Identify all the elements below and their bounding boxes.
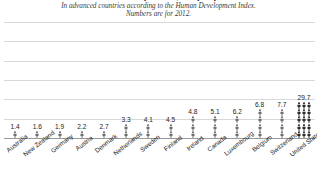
bar-sweden[interactable]: 4.1 xyxy=(137,22,159,138)
bar-value-label: 1.4 xyxy=(11,123,20,130)
bar-belgium[interactable]: 6.8 xyxy=(248,22,270,138)
chart-subtitle-line-1: In advanced countries according to the H… xyxy=(0,2,317,10)
person-icon xyxy=(302,102,306,109)
x-label-slot: Netherlands xyxy=(115,138,137,180)
bar-value-label: 5.1 xyxy=(210,108,219,115)
x-label-slot: Finland xyxy=(160,138,182,180)
icon-column xyxy=(58,131,62,138)
x-label-slot: Denmark xyxy=(93,138,115,180)
icon-column xyxy=(80,131,84,138)
person-icon xyxy=(80,131,84,138)
x-label-slot: Austria xyxy=(71,138,93,180)
icon-column xyxy=(302,102,306,138)
bar-value-label: 4.8 xyxy=(188,108,197,115)
icon-column xyxy=(102,131,106,138)
person-icon xyxy=(191,131,195,138)
person-icon xyxy=(302,109,306,116)
chart-header: Gun deaths per 100,000 people In advance… xyxy=(0,0,317,19)
person-icon xyxy=(258,131,262,138)
x-label-slot: Luxembourg xyxy=(226,138,248,180)
bar-netherlands[interactable]: 3.3 xyxy=(115,22,137,138)
person-icon xyxy=(235,124,239,131)
bar-canada[interactable]: 5.1 xyxy=(204,22,226,138)
bar-luxembourg[interactable]: 6.2 xyxy=(226,22,248,138)
icon-stack xyxy=(146,124,150,138)
bar-value-label: 1.6 xyxy=(33,123,42,130)
person-icon xyxy=(191,116,195,123)
person-icon xyxy=(280,116,284,123)
person-icon xyxy=(235,116,239,123)
bar-series: 1.41.61.92.22.73.34.14.54.85.16.26.87.72… xyxy=(4,22,315,138)
x-label-slot: Germany xyxy=(48,138,70,180)
person-icon xyxy=(124,131,128,138)
person-icon xyxy=(102,131,106,138)
person-icon xyxy=(297,102,301,109)
icon-stack xyxy=(258,109,262,138)
x-label-slot: Sweden xyxy=(137,138,159,180)
person-icon xyxy=(169,124,173,131)
person-icon xyxy=(297,109,301,116)
bar-value-label: 4.1 xyxy=(144,116,153,123)
bar-value-label: 2.7 xyxy=(99,123,108,130)
bar-value-label: 6.8 xyxy=(255,101,264,108)
x-axis-labels: AustraliaNew ZealandGermanyAustriaDenmar… xyxy=(4,138,315,180)
icon-stack xyxy=(80,131,84,138)
person-icon xyxy=(280,109,284,116)
icon-column xyxy=(146,124,150,138)
icon-stack xyxy=(213,116,217,138)
x-label-slot: Canada xyxy=(204,138,226,180)
person-icon xyxy=(302,131,306,138)
bar-value-label: 29.7 xyxy=(298,94,311,101)
icon-column xyxy=(191,116,195,138)
person-icon xyxy=(169,131,173,138)
person-icon xyxy=(258,124,262,131)
person-icon xyxy=(280,131,284,138)
person-icon xyxy=(213,131,217,138)
person-icon xyxy=(307,102,311,109)
person-icon xyxy=(302,116,306,123)
x-label-slot: Australia xyxy=(4,138,26,180)
person-icon xyxy=(58,131,62,138)
person-icon xyxy=(258,116,262,123)
icon-column xyxy=(258,109,262,138)
bar-switzerland[interactable]: 7.7 xyxy=(271,22,293,138)
bar-denmark[interactable]: 2.7 xyxy=(93,22,115,138)
icon-stack xyxy=(169,124,173,138)
bar-value-label: 4.5 xyxy=(166,116,175,123)
person-icon xyxy=(213,124,217,131)
icon-stack xyxy=(124,124,128,138)
bar-australia[interactable]: 1.4 xyxy=(4,22,26,138)
person-icon xyxy=(146,124,150,131)
bar-ireland[interactable]: 4.8 xyxy=(182,22,204,138)
icon-column xyxy=(307,102,311,138)
icon-stack xyxy=(102,131,106,138)
icon-column xyxy=(13,131,17,138)
x-label-slot: Ireland xyxy=(182,138,204,180)
bar-austria[interactable]: 2.2 xyxy=(71,22,93,138)
bar-united-states[interactable]: 29.7 xyxy=(293,22,315,138)
bar-value-label: 2.2 xyxy=(77,123,86,130)
bar-finland[interactable]: 4.5 xyxy=(160,22,182,138)
bar-new-zealand[interactable]: 1.6 xyxy=(26,22,48,138)
person-icon xyxy=(191,124,195,131)
icon-stack xyxy=(280,109,284,138)
icon-column xyxy=(124,124,128,138)
icon-stack xyxy=(13,131,17,138)
person-icon xyxy=(307,124,311,131)
plot-area: 1.41.61.92.22.73.34.14.54.85.16.26.87.72… xyxy=(0,22,317,138)
icon-column xyxy=(280,109,284,138)
bar-value-label: 6.2 xyxy=(233,108,242,115)
bar-germany[interactable]: 1.9 xyxy=(48,22,70,138)
bar-value-label: 7.7 xyxy=(277,101,286,108)
bar-value-label: 1.9 xyxy=(55,123,64,130)
person-icon xyxy=(13,131,17,138)
person-icon xyxy=(258,109,262,116)
x-label-slot: Belgium xyxy=(248,138,270,180)
x-label-slot: Switzerland xyxy=(271,138,293,180)
person-icon xyxy=(307,109,311,116)
person-icon xyxy=(213,116,217,123)
icon-column xyxy=(235,116,239,138)
person-icon xyxy=(302,124,306,131)
icon-stack xyxy=(58,131,62,138)
person-icon xyxy=(280,124,284,131)
